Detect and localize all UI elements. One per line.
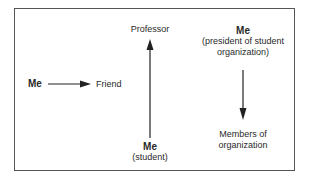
node-me-president: Me bbox=[228, 25, 258, 36]
node-me-president-role-line1: (president of student bbox=[193, 36, 293, 47]
node-me-student: Me bbox=[135, 141, 165, 152]
node-professor: Professor bbox=[130, 24, 170, 35]
arrow-student-to-professor bbox=[147, 39, 154, 138]
node-members-line2: organization bbox=[208, 140, 278, 151]
arrow-president-to-members bbox=[240, 70, 247, 120]
node-members-line1: Members of bbox=[208, 129, 278, 140]
node-me-student-role: (student) bbox=[125, 152, 175, 163]
node-me-left: Me bbox=[28, 78, 42, 89]
node-me-president-role-line2: organization) bbox=[193, 47, 293, 58]
node-friend: Friend bbox=[96, 79, 122, 90]
arrow-me-to-friend bbox=[48, 81, 91, 88]
